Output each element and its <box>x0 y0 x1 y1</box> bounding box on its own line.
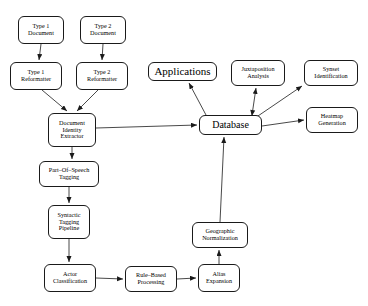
edge-e-type1doc-type1ref <box>39 44 41 60</box>
node-label-line: Reformatter <box>21 76 51 83</box>
node-alias_expansion[interactable]: AliasExpansion <box>198 264 240 292</box>
node-label-line: Processing <box>138 279 165 286</box>
edge-e-type1ref-die <box>42 90 67 111</box>
node-label-line: Identification <box>314 73 347 80</box>
edge-e-database-juxtaposition <box>252 88 256 115</box>
edge-e-die-database <box>96 125 197 128</box>
node-type1_document[interactable]: Type 1Document <box>18 16 64 44</box>
edge-e-actor-rule <box>96 278 123 279</box>
diagram-edges-layer <box>0 0 368 306</box>
node-database[interactable]: Database <box>199 115 262 135</box>
node-document_identity_extractor[interactable]: DocumentIdentityExtractor <box>48 113 96 147</box>
node-juxtaposition_analysis[interactable]: JuxtapositionAnalysis <box>231 60 285 86</box>
node-label-line: Tagging <box>59 174 79 181</box>
diagram-canvas: Type 1DocumentType 2DocumentType 1Reform… <box>0 0 368 306</box>
node-label-line: Pipeline <box>59 225 79 232</box>
edge-e-database-synset <box>255 86 302 118</box>
edge-e-database-heatmap <box>262 120 304 126</box>
node-label-line: Extractor <box>60 133 83 140</box>
node-label-line: Analysis <box>247 73 269 80</box>
node-syntactic_tagging_pipeline[interactable]: SyntacticTaggingPipeline <box>48 205 90 239</box>
node-label-line: Database <box>212 119 249 130</box>
node-label-line: Reformatter <box>87 76 117 83</box>
edge-e-database-applications <box>189 83 206 115</box>
node-label-line: Normalization <box>202 235 238 242</box>
edge-e-type2doc-type2ref <box>102 44 103 60</box>
node-applications[interactable]: Applications <box>148 62 217 81</box>
node-type1_reformatter[interactable]: Type 1Reformatter <box>10 62 62 90</box>
edge-e-type2ref-die <box>77 90 98 111</box>
node-label-line: Generation <box>318 120 346 127</box>
node-label-line: Applications <box>154 65 210 77</box>
node-type2_document[interactable]: Type 2Document <box>80 16 126 44</box>
edge-e-geo-database <box>220 137 224 222</box>
node-geographic_normalization[interactable]: GeographicNormalization <box>192 222 248 248</box>
node-rule_based_processing[interactable]: Rule–BasedProcessing <box>125 266 177 292</box>
node-actor_classification[interactable]: ActorClassification <box>44 264 96 292</box>
node-label-line: Classification <box>53 278 87 285</box>
node-label-line: Expansion <box>206 278 232 285</box>
node-heatmap_generation[interactable]: HeatmapGeneration <box>306 107 358 133</box>
node-part_of_speech_tagging[interactable]: Part–Of–SpeechTagging <box>39 161 99 187</box>
edge-e-rule-alias <box>177 278 196 279</box>
node-type2_reformatter[interactable]: Type 2Reformatter <box>76 62 128 90</box>
node-label-line: Document <box>90 30 116 37</box>
node-label-line: Document <box>28 30 54 37</box>
node-synset_identification[interactable]: SynsetIdentification <box>304 60 358 86</box>
